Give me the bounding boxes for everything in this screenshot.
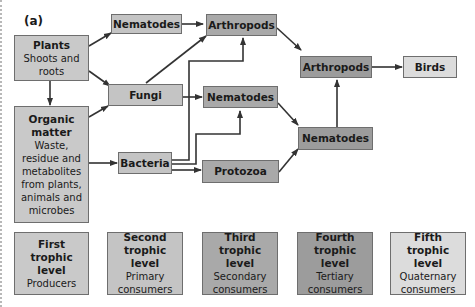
node-nematodes-top: Nematodes: [111, 14, 182, 34]
node-organic-matter: Organic matter Waste, residue and metabo…: [14, 106, 89, 223]
node-fungi: Fungi: [108, 84, 183, 106]
edge-plants-fungi: [89, 71, 110, 86]
edge-organic-fungi: [89, 106, 108, 117]
legend-first-title: First trophic level: [19, 238, 85, 277]
node-organic-matter-title: Organic matter: [26, 113, 78, 139]
legend-second-title: Second trophic level: [112, 231, 178, 270]
legend-second-trophic-level: Second trophic level Primary consumers: [107, 232, 183, 295]
legend-third-trophic-level: Third trophic level Secondary consumers: [202, 232, 278, 295]
node-protozoa: Protozoa: [202, 160, 279, 183]
node-plants-title: Plants: [33, 39, 70, 52]
node-nematodes-top-title: Nematodes: [113, 18, 180, 31]
legend-first-subtitle: Producers: [27, 277, 77, 290]
edge-fungi-arthropods: [146, 36, 206, 83]
edge-bacteria-nematodes: [172, 111, 240, 164]
node-plants-subtitle: Shoots and roots: [22, 52, 82, 78]
edge-arthropods-arthropods: [277, 28, 301, 50]
node-arthropods-top: Arthropods: [206, 14, 277, 36]
node-arthropods-right: Arthropods: [300, 56, 372, 78]
node-bacteria-title: Bacteria: [120, 157, 169, 170]
node-nematodes-right-title: Nematodes: [302, 132, 369, 145]
node-arthropods-right-title: Arthropods: [303, 61, 370, 74]
legend-third-title: Third trophic level: [207, 231, 273, 270]
node-nematodes-mid: Nematodes: [203, 86, 278, 108]
legend-fourth-trophic-level: Fourth trophic level Tertiary consumers: [297, 232, 373, 295]
legend-fourth-subtitle: Tertiary consumers: [305, 270, 365, 296]
edge-plants-nematodes: [89, 33, 111, 46]
node-protozoa-title: Protozoa: [214, 165, 267, 178]
legend-second-subtitle: Primary consumers: [115, 270, 175, 296]
legend-fifth-trophic-level: Fifth trophic level Quaternary consumers: [390, 232, 466, 295]
node-arthropods-top-title: Arthropods: [208, 19, 275, 32]
legend-third-subtitle: Secondary consumers: [210, 270, 270, 296]
node-plants: Plants Shoots and roots: [14, 35, 89, 81]
legend-fifth-title: Fifth trophic level: [395, 231, 461, 270]
node-bacteria: Bacteria: [118, 152, 172, 174]
node-birds: Birds: [403, 56, 457, 78]
legend-fourth-title: Fourth trophic level: [302, 231, 368, 270]
node-fungi-title: Fungi: [129, 89, 162, 102]
edge-nematodes-nematodes: [278, 103, 298, 125]
legend-fifth-subtitle: Quaternary consumers: [396, 270, 460, 296]
node-organic-matter-subtitle: Waste, residue and metabolites from plan…: [19, 139, 85, 217]
node-nematodes-right: Nematodes: [298, 127, 373, 150]
edge-protozoa-nematodes: [279, 149, 298, 172]
node-nematodes-mid-title: Nematodes: [207, 91, 274, 104]
legend-first-trophic-level: First trophic level Producers: [14, 232, 89, 295]
node-birds-title: Birds: [415, 61, 446, 74]
